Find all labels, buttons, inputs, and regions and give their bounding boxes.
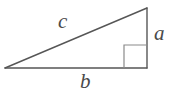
label-hypotenuse-c: c xyxy=(58,11,67,32)
label-horizontal-leg-b: b xyxy=(80,71,91,92)
hypotenuse-side-c xyxy=(5,8,147,68)
right-angle-marker-icon xyxy=(124,45,147,68)
label-vertical-leg-a: a xyxy=(154,23,165,44)
right-triangle-figure: c a b xyxy=(0,0,178,99)
